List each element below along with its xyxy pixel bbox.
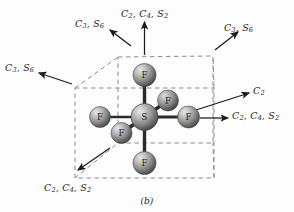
arrow-lower-left-c2c4s2 — [78, 148, 110, 170]
atom-f-right: F — [178, 106, 200, 128]
axis-term-c4: C4 — [139, 8, 151, 19]
arrow-upper-left-c3s6 — [110, 30, 131, 46]
atom-label-f-bottom: F — [142, 158, 148, 168]
atom-label-s-center: S — [142, 112, 148, 122]
cube-edge-tl — [75, 57, 118, 88]
axis-term-c3: C3 — [5, 62, 17, 73]
atom-label-f-right: F — [186, 112, 192, 122]
atom-label-f-top: F — [142, 70, 148, 80]
atom-s-center: S — [131, 104, 158, 131]
atom-f-back-upper: F — [158, 90, 179, 111]
axis-term-s2: S2 — [80, 182, 91, 193]
symmetry-elements-figure: F F F F F S F — [0, 0, 294, 212]
atom-f-left: F — [90, 107, 111, 128]
cube-edge-br — [213, 143, 214, 178]
axis-term-c2: C2 — [232, 110, 244, 121]
axis-label-right-c2: C2 — [253, 85, 265, 97]
atom-f-front-lower: F — [111, 123, 132, 144]
cube-edge-bl — [75, 143, 118, 178]
axis-term-s2: S2 — [157, 8, 168, 19]
arrow-right-c2 — [196, 93, 249, 110]
axis-label-upper-left-c3s6: C3, S6 — [75, 18, 104, 30]
atom-label-f-back-upper: F — [165, 96, 171, 106]
axis-term-c4: C4 — [250, 110, 262, 121]
axis-term-c2: C2 — [44, 182, 56, 193]
axis-label-lower-left-c2c4s2: C2, C4, S2 — [44, 182, 91, 194]
atom-f-top: F — [133, 64, 156, 87]
axis-term-c4: C4 — [62, 182, 74, 193]
axis-term-s6: S6 — [93, 18, 104, 29]
axis-label-left-c3s6: C3, S6 — [5, 62, 34, 74]
axis-label-top-c2c4s2: C2, C4, S2 — [121, 8, 168, 20]
arrow-upper-right-c3s6 — [215, 32, 238, 50]
axis-term-c2: C2 — [253, 85, 265, 96]
atom-f-bottom: F — [133, 152, 156, 175]
axis-term-s6: S6 — [23, 62, 34, 73]
axis-label-upper-right-c3s6: C3, S6 — [224, 22, 253, 34]
axis-term-c3: C3 — [75, 18, 87, 29]
axis-label-right-c2c4s2: C2, C4, S2 — [232, 110, 279, 122]
axis-term-c3: C3 — [224, 22, 236, 33]
axis-term-s2: S2 — [268, 110, 279, 121]
figure-caption: (b) — [0, 196, 294, 206]
arrow-left-c3s6 — [39, 73, 72, 84]
axis-term-c2: C2 — [121, 8, 133, 19]
axis-term-s6: S6 — [242, 22, 253, 33]
atom-label-f-front-lower: F — [119, 128, 125, 138]
atom-label-f-left: F — [97, 112, 103, 122]
atoms: F F F F F S F — [90, 64, 200, 175]
